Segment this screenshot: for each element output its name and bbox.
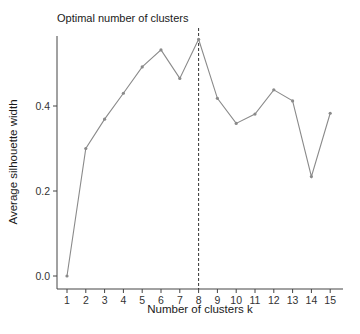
x-tick-label: 15 <box>324 294 336 306</box>
x-tick-label: 1 <box>64 294 70 306</box>
y-tick-label: 0.2 <box>35 185 50 197</box>
data-point <box>197 38 200 41</box>
data-point <box>253 112 256 115</box>
data-point <box>65 274 68 277</box>
data-point <box>141 65 144 68</box>
data-point <box>216 97 219 100</box>
data-point <box>84 147 87 150</box>
y-tick-label: 0.4 <box>35 100 50 112</box>
x-tick-label: 3 <box>102 294 108 306</box>
data-point <box>329 112 332 115</box>
data-point <box>122 92 125 95</box>
x-tick-label: 5 <box>139 294 145 306</box>
y-tick-label: 0.0 <box>35 270 50 282</box>
data-point <box>272 88 275 91</box>
x-tick-label: 4 <box>120 294 126 306</box>
data-point <box>235 122 238 125</box>
data-point <box>103 118 106 121</box>
data-point <box>291 99 294 102</box>
x-tick-label: 13 <box>287 294 299 306</box>
x-axis-label: Number of clusters k <box>147 303 253 315</box>
y-ticks: 0.00.20.4 <box>35 100 57 282</box>
data-point <box>178 77 181 80</box>
data-point <box>159 48 162 51</box>
data-point <box>310 175 313 178</box>
x-tick-label: 14 <box>306 294 318 306</box>
chart-title: Optimal number of clusters <box>57 12 189 24</box>
x-tick-label: 12 <box>268 294 280 306</box>
x-tick-label: 2 <box>83 294 89 306</box>
y-axis-label: Average silhouette width <box>7 99 19 224</box>
chart: Optimal number of clusters 0.00.20.4 123… <box>0 0 360 334</box>
